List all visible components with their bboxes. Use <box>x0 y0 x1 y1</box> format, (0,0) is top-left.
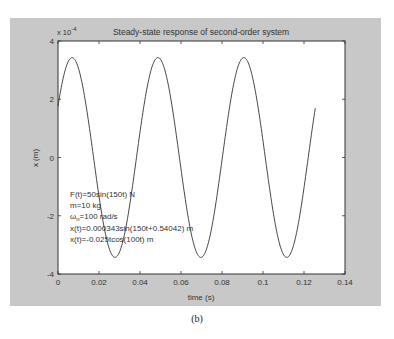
x-axis-label: time (s) <box>188 293 215 302</box>
y-tick-label: -2 <box>47 212 55 221</box>
y-tick-label: -4 <box>47 270 55 279</box>
figure-caption: (b) <box>0 313 394 324</box>
y-exponent-label: x 10-4 <box>57 26 77 37</box>
annotation-resonant: x(t)=-0.025tcos(100t) m <box>70 235 154 244</box>
x-tick-label: 0 <box>56 278 61 287</box>
annotation-force: F(t)=50sin(150t) N <box>70 190 135 199</box>
x-tick-label: 0.04 <box>132 278 148 287</box>
chart: 00.020.040.060.080.10.120.14 -4-2024 Ste… <box>0 0 394 339</box>
annotation-steady-state: x(t)=0.000343sin(150t+0.54042) m <box>70 224 194 233</box>
y-tick-label: 0 <box>50 154 55 163</box>
x-tick-label: 0.06 <box>173 278 189 287</box>
x-tick-label: 0.12 <box>296 278 312 287</box>
y-tick-label: 2 <box>50 95 55 104</box>
chart-title: Steady-state response of second-order sy… <box>113 27 289 37</box>
x-tick-label: 0.08 <box>214 278 230 287</box>
annotation-mass: m=10 kg <box>70 201 101 210</box>
y-axis-label: x (m) <box>31 149 40 168</box>
x-tick-label: 0.1 <box>257 278 269 287</box>
x-tick-label: 0.14 <box>337 278 353 287</box>
y-tick-label: 4 <box>50 37 55 46</box>
x-tick-label: 0.02 <box>91 278 107 287</box>
